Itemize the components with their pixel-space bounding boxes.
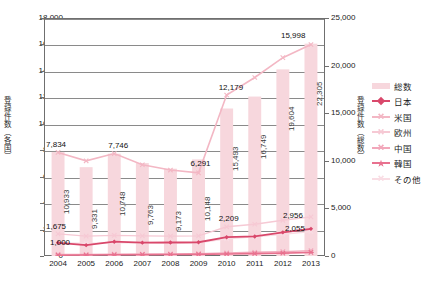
bar-value-label: 19,604 (287, 107, 296, 131)
bar-value-label: 16,749 (259, 134, 268, 158)
legend-item-2[interactable]: 米国 (372, 109, 440, 125)
legend-item-6[interactable]: その他 (372, 171, 440, 187)
chart-legend: 総数日本米国欧州中国韓国その他 (372, 78, 440, 187)
point-value-label: 6,291 (191, 159, 211, 168)
legend-item-1[interactable]: 日本 (372, 94, 440, 110)
y-tick-mark-right (325, 113, 329, 114)
point-value-label: 2,055 (285, 224, 305, 233)
bar (304, 44, 317, 256)
legend-swatch-icon (372, 174, 390, 184)
y-tick-mark-right (325, 161, 329, 162)
legend-item-3[interactable]: 欧州 (372, 125, 440, 141)
y-tick-mark-right (325, 208, 329, 209)
legend-item-4[interactable]: 中国 (372, 140, 440, 156)
chart-container: 登録件数（各国） 登録件数（総数） 02,0004,0006,0008,0001… (0, 0, 444, 282)
legend-item-label: 中国 (394, 142, 412, 154)
legend-item-label: 韓国 (394, 157, 412, 169)
y-tick-label-right: 15,000 (331, 108, 371, 117)
bar-value-label: 9,173 (174, 211, 183, 231)
point-value-label: 12,179 (219, 83, 243, 92)
legend-swatch-icon (372, 96, 390, 106)
y-tick-mark-right (325, 256, 329, 257)
y-axis-title-left: 登録件数（各国） (2, 96, 10, 160)
y-axis-title-right: 登録件数（総数） (355, 96, 363, 160)
y-tick-label-right: 5,000 (331, 203, 371, 212)
legend-item-0[interactable]: 総数 (372, 78, 440, 94)
bar-value-label: 9,331 (90, 209, 99, 229)
bar-value-label: 10,148 (203, 197, 212, 221)
point-value-label: 7,746 (108, 141, 128, 150)
legend-item-5[interactable]: 韓国 (372, 156, 440, 172)
bar (220, 109, 233, 256)
point-value-label: 7,834 (46, 140, 66, 149)
legend-item-label: 日本 (394, 95, 412, 107)
point-value-label: 1,000 (50, 238, 70, 247)
point-value-label: 15,998 (281, 31, 305, 40)
y-tick-label-right: 25,000 (331, 13, 371, 22)
y-tick-mark-right (325, 18, 329, 19)
legend-item-label: 米国 (394, 111, 412, 123)
bar-value-label: 15,493 (231, 146, 240, 170)
y-tick-label-right: 20,000 (331, 61, 371, 70)
bar-value-label: 9,763 (146, 205, 155, 225)
legend-swatch-icon (372, 81, 390, 91)
legend-swatch-icon (372, 158, 390, 168)
point-value-label: 1,675 (46, 222, 66, 231)
legend-swatch-icon (372, 127, 390, 137)
series-marker (253, 75, 257, 79)
series-line (58, 44, 311, 172)
y-tick-label-right: 0 (331, 251, 371, 260)
point-value-label: 2,209 (219, 214, 239, 223)
legend-item-label: 総数 (394, 80, 412, 92)
bar-value-label: 22,305 (315, 81, 324, 105)
legend-item-label: 欧州 (394, 126, 412, 138)
y-tick-mark-right (325, 66, 329, 67)
point-value-label: 2,956 (283, 211, 303, 220)
y-tick-label-right: 10,000 (331, 156, 371, 165)
bar (248, 97, 261, 256)
bar-value-label: 10,748 (118, 191, 127, 215)
series-layer (44, 18, 325, 256)
legend-item-label: その他 (394, 173, 421, 185)
y-tick-mark-left (40, 256, 44, 257)
legend-swatch-icon (372, 143, 390, 153)
legend-swatch-icon (372, 112, 390, 122)
bar-value-label: 10,933 (62, 189, 71, 213)
x-tick-label: 2013 (294, 259, 328, 268)
